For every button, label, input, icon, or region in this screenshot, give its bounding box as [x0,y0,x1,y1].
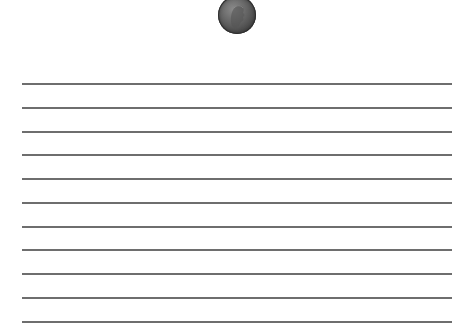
penny-coin-icon [218,0,256,34]
ruled-line [22,273,452,275]
lincoln-profile-icon [218,0,256,34]
ruled-line [22,297,452,299]
ruled-line [22,83,452,85]
ruled-line [22,154,452,156]
ruled-line [22,107,452,109]
ruled-line [22,226,452,228]
ruled-line [22,178,452,180]
ruled-line [22,249,452,251]
ruled-line [22,321,452,323]
ruled-line [22,131,452,133]
ruled-line [22,202,452,204]
